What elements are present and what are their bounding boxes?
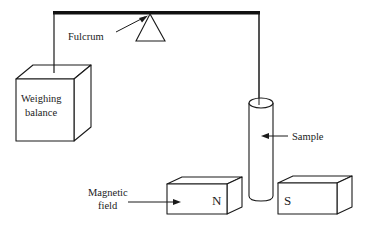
magnetic-field-arrow: [128, 199, 181, 205]
balance-label-line2: balance: [25, 107, 57, 118]
balance-label-line1: Weighing: [21, 93, 62, 104]
north-magnet: [167, 177, 242, 214]
sample-label: Sample: [292, 131, 324, 142]
south-pole-label: S: [284, 193, 291, 208]
fulcrum-label: Fulcrum: [68, 31, 104, 42]
gouy-balance-diagram: Fulcrum Weighing balance Sample N S Magn…: [0, 0, 368, 225]
magnetic-field-label-line2: field: [98, 200, 118, 211]
sample-tube: [249, 98, 273, 201]
magnetic-field-label-line1: Magnetic: [88, 187, 128, 198]
north-pole-label: N: [212, 193, 222, 208]
